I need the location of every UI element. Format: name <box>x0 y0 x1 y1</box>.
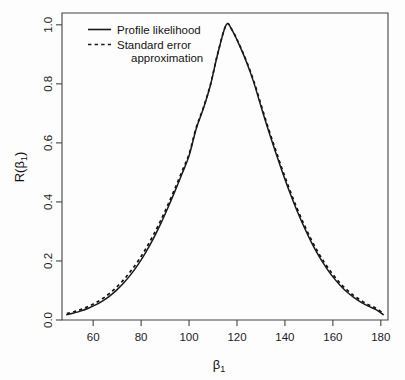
y-tick-label: 0.6 <box>42 135 54 151</box>
y-tick-label: 0.0 <box>42 312 54 328</box>
x-axis-title-base: β <box>213 357 220 372</box>
y-axis-title-tail: ) <box>12 152 27 156</box>
x-tick-label: 120 <box>227 331 246 343</box>
x-tick-label: 60 <box>87 331 100 343</box>
y-tick-label: 0.2 <box>42 253 54 269</box>
svg-text:R(β1): R(β1) <box>12 152 29 183</box>
x-tick-label: 100 <box>179 331 198 343</box>
x-tick-label: 140 <box>275 331 294 343</box>
y-tick-label: 1.0 <box>42 17 54 33</box>
legend-label-profile-likelihood: Profile likelihood <box>117 24 201 36</box>
y-tick-label: 0.4 <box>42 193 54 210</box>
profile-likelihood-plot: 6080100120140160180 0.00.20.40.60.81.0 P… <box>0 0 405 380</box>
legend-label-standard-error: Standard error <box>117 39 191 51</box>
x-tick-label: 160 <box>323 331 342 343</box>
y-tick-label: 0.8 <box>42 76 54 92</box>
x-tick-label: 80 <box>135 331 148 343</box>
y-axis-title-base: R(β <box>12 161 27 182</box>
x-axis-title-subscript: 1 <box>220 364 225 374</box>
chart-figure: 6080100120140160180 0.00.20.40.60.81.0 P… <box>0 0 405 380</box>
legend-label-standard-error-continued: approximation <box>131 52 203 64</box>
x-tick-label: 180 <box>371 331 390 343</box>
y-axis-title: R(β1) <box>12 152 29 183</box>
